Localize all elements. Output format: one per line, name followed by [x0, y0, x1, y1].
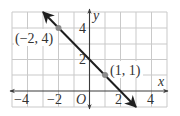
point-label-b: (1, 1) [110, 63, 141, 79]
x-tick-label: −4 [14, 92, 29, 107]
origin-label: O [76, 92, 86, 107]
x-tick-label: −2 [47, 92, 62, 107]
y-axis-label: y [91, 8, 100, 23]
coordinate-graph: (−2, 4) (1, 1) y x O −4 −2 2 4 4 2 [0, 0, 180, 116]
x-tick-label: 2 [115, 92, 122, 107]
y-tick-label: 2 [79, 52, 86, 67]
point-label-a: (−2, 4) [15, 31, 54, 47]
x-axis-label: x [157, 74, 165, 89]
x-tick-label: 4 [147, 92, 154, 107]
y-tick-label: 4 [79, 21, 86, 36]
point-marker-b [102, 72, 108, 78]
point-marker-a [56, 25, 62, 31]
